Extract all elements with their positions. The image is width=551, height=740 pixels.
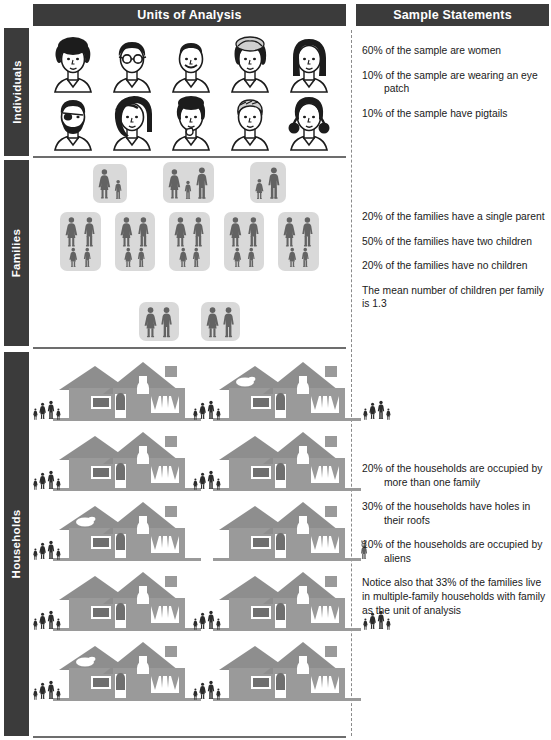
house-icon: [211, 428, 363, 500]
row-label-individuals: Individuals: [4, 28, 29, 156]
figure-woman: [283, 216, 296, 246]
figure-woman: [39, 612, 46, 629]
portrait-woman-long-dark-hair: [104, 92, 160, 150]
statement: 50% of the families have two children: [362, 235, 550, 249]
statement: Notice also that 33% of the families liv…: [362, 576, 550, 617]
figure-girl: [33, 478, 38, 489]
household-cell: [211, 428, 363, 500]
household-family-group: [33, 470, 61, 489]
figure-man: [377, 400, 385, 419]
figure-child: [184, 180, 192, 199]
statement: 20% of the households are occupied by mo…: [362, 462, 550, 489]
household-family-group: [33, 610, 61, 629]
house-icon: [51, 638, 203, 710]
family-children: [179, 247, 201, 267]
figure-man: [160, 306, 173, 337]
figure-man: [83, 216, 96, 246]
figure-girl: [56, 408, 61, 419]
figure-girl: [288, 247, 297, 267]
figure-woman: [39, 472, 46, 489]
figure-man: [195, 166, 209, 199]
family-group: [163, 162, 214, 203]
row-label-households-text: Households: [11, 510, 23, 579]
portrait-woman-pigtails: [281, 92, 337, 150]
figure-man: [47, 540, 55, 559]
figure-boy: [83, 247, 92, 267]
household-cell: [51, 638, 203, 710]
family-group: [250, 162, 286, 203]
figure-girl: [124, 247, 133, 267]
figure-girl: [193, 688, 198, 699]
family-adults: [229, 216, 260, 246]
row-label-households: Households: [4, 352, 29, 736]
units-of-analysis-figure: Units of Analysis Sample Statements Indi…: [0, 0, 551, 740]
household-family-group: [33, 540, 61, 559]
section-divider-1: [33, 156, 346, 158]
family-children: [288, 247, 310, 267]
row-label-families-text: Families: [11, 229, 23, 277]
statement: 10% of the sample are wearing an eye pat…: [362, 69, 550, 96]
household-cell: [211, 568, 363, 640]
house-icon: [51, 358, 203, 430]
figure-man: [192, 216, 205, 246]
family-adults: [174, 216, 205, 246]
figure-girl: [363, 408, 368, 419]
family-group: [278, 212, 319, 271]
family-children: [233, 247, 255, 267]
house-icon: [51, 568, 203, 640]
household-cell: [211, 638, 363, 710]
figure-woman: [206, 306, 219, 337]
family-group: [115, 212, 156, 271]
household-family-group: [193, 400, 221, 419]
faces-grid: [43, 34, 338, 150]
household-cell: [51, 358, 203, 430]
figure-boy: [192, 247, 201, 267]
figure-man: [47, 400, 55, 419]
portrait-man-beard-eye-patch: [45, 92, 101, 150]
household-cell: [211, 358, 363, 430]
figure-woman: [120, 216, 133, 246]
family-children: [124, 247, 146, 267]
house-icon: [51, 498, 203, 570]
families-row-2: [33, 212, 346, 271]
household-family-group: [193, 470, 221, 489]
statements-households: 20% of the households are occupied by mo…: [362, 462, 550, 628]
portrait-man-glasses: [104, 34, 160, 92]
household-family-group: [33, 400, 61, 419]
panel-individuals: [33, 28, 346, 156]
panel-households: [33, 352, 346, 736]
figure-girl: [33, 688, 38, 699]
figure-woman: [65, 216, 78, 246]
figure-girl: [216, 618, 221, 629]
household-family-group: [193, 680, 221, 699]
house-icon: [211, 638, 363, 710]
figure-girl: [179, 247, 188, 267]
figure-woman: [39, 682, 46, 699]
figure-girl: [233, 247, 242, 267]
figure-woman: [369, 402, 376, 419]
figure-woman: [98, 168, 111, 198]
figure-girl: [33, 548, 38, 559]
figure-girl: [33, 408, 38, 419]
figure-girl: [216, 688, 221, 699]
figure-man: [47, 610, 55, 629]
families-row-3: [33, 302, 346, 341]
household-cell: [211, 498, 363, 570]
portrait-man-short-hair: [222, 92, 278, 150]
family-children: [69, 247, 91, 267]
household-family-group: [33, 680, 61, 699]
statement: 30% of the households have holes in thei…: [362, 500, 550, 527]
figure-man: [207, 470, 215, 489]
portrait-woman-short-afro: [163, 92, 219, 150]
figure-girl: [386, 408, 391, 419]
figure-woman: [229, 216, 242, 246]
eye-patch: [63, 114, 71, 121]
family-adults: [283, 216, 314, 246]
figure-woman: [39, 402, 46, 419]
figure-man: [207, 680, 215, 699]
row-label-families: Families: [4, 160, 29, 346]
figure-girl: [255, 178, 264, 199]
figure-boy: [247, 247, 256, 267]
figure-woman: [39, 542, 46, 559]
figure-girl: [216, 478, 221, 489]
